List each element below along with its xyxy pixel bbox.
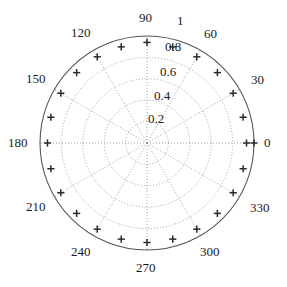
data-point-marker xyxy=(73,210,80,217)
data-point-marker xyxy=(193,53,200,60)
angular-tick-label-60: 60 xyxy=(204,27,217,40)
grid-spokes xyxy=(40,36,254,250)
angular-tick-label-330: 330 xyxy=(250,201,270,214)
radial-tick-label-0-4: 0.4 xyxy=(154,89,170,102)
data-point-marker xyxy=(240,114,247,121)
data-point-marker xyxy=(47,114,54,121)
grid-spoke xyxy=(147,143,240,197)
radial-tick-label-1: 1 xyxy=(177,14,184,27)
angular-tick-label-90: 90 xyxy=(139,11,152,24)
radial-tick-label-0-2: 0.2 xyxy=(148,112,164,125)
data-point-marker xyxy=(57,90,64,97)
angular-tick-label-0: 0 xyxy=(264,136,271,149)
data-point-marker xyxy=(143,239,150,246)
polar-plot-canvas xyxy=(0,0,287,287)
data-point-marker xyxy=(47,165,54,172)
radial-tick-label-0-6: 0.6 xyxy=(160,65,176,78)
angular-tick-label-120: 120 xyxy=(71,26,91,39)
angular-tick-label-30: 30 xyxy=(251,73,264,86)
data-point-marker xyxy=(240,165,247,172)
data-point-marker xyxy=(214,210,221,217)
data-point-marker xyxy=(57,189,64,196)
polar-plot-figure: 0 30 60 90 120 150 180 210 240 270 300 3… xyxy=(0,0,287,287)
angular-tick-label-240: 240 xyxy=(71,245,91,258)
data-point-marker xyxy=(118,43,125,50)
angular-tick-label-210: 210 xyxy=(26,200,46,213)
data-point-marker xyxy=(143,39,150,46)
angular-tick-label-270: 270 xyxy=(136,261,156,274)
grid-spoke xyxy=(54,90,147,144)
data-point-marker xyxy=(250,139,257,146)
grid-spoke xyxy=(147,143,201,236)
data-point-marker xyxy=(193,226,200,233)
data-point-marker xyxy=(44,139,51,146)
data-point-marker xyxy=(169,236,176,243)
radial-tick-label-0-8: 0.8 xyxy=(165,40,181,53)
data-point-marker xyxy=(243,139,250,146)
data-point-marker xyxy=(73,69,80,76)
angular-tick-label-180: 180 xyxy=(8,136,28,149)
angular-tick-label-150: 150 xyxy=(26,72,46,85)
data-point-marker xyxy=(214,69,221,76)
grid-spoke xyxy=(54,143,147,197)
data-point-marker xyxy=(230,90,237,97)
grid-spoke xyxy=(94,143,148,236)
angular-tick-label-300: 300 xyxy=(200,245,220,258)
data-point-marker xyxy=(94,53,101,60)
data-point-marker xyxy=(94,226,101,233)
grid-spoke xyxy=(94,50,148,143)
data-point-marker xyxy=(230,189,237,196)
data-point-marker xyxy=(118,236,125,243)
